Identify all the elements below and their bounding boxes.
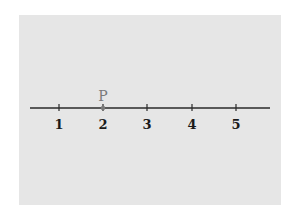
tick-label: 2 xyxy=(98,117,107,132)
tick-label: 5 xyxy=(231,117,240,132)
point-marker xyxy=(101,106,105,110)
tick-label: 1 xyxy=(54,117,63,132)
point-label: P xyxy=(98,88,107,104)
point-p: P xyxy=(98,88,107,110)
tick-label: 3 xyxy=(142,117,151,132)
tick-label-group: 12345 xyxy=(54,117,240,132)
number-line-diagram: 12345 P xyxy=(0,0,297,216)
tick-label: 4 xyxy=(187,117,196,132)
